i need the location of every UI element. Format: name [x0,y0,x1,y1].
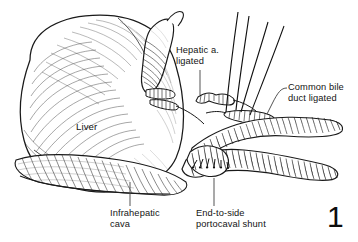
illustration-canvas [0,0,358,242]
surgical-illustration-figure: Liver Hepatic a. ligated Common bile duc… [0,0,358,242]
suture-thread-3 [241,22,268,112]
hilar-stump-upper [146,89,175,99]
label-infrahepatic-cava: Infrahepatic cava [110,208,160,230]
figure-number: 1 [327,202,344,232]
label-end-to-side-portocaval-shunt: End-to-side portocaval shunt [196,208,266,230]
label-common-bile-duct-ligated: Common bile duct ligated [288,82,344,104]
hepatic-artery-stump [196,93,234,105]
suture-thread-2 [236,16,249,110]
suture-thread-4 [250,26,284,115]
label-hepatic-artery-ligated: Hepatic a. ligated [176,45,219,67]
label-liver: Liver [76,121,97,132]
bile-duct-proximal [206,112,226,114]
leader-line-common-bile-duct[interactable] [267,88,287,114]
